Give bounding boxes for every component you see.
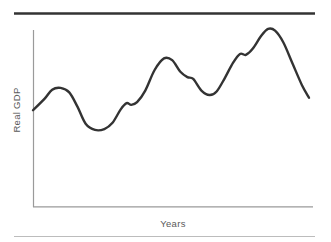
x-axis-label: Years <box>160 218 185 229</box>
x-axis-label-wrap: Years <box>33 213 313 231</box>
chart-canvas <box>0 0 331 242</box>
y-axis-label-wrap: Real GDP <box>9 78 23 142</box>
chart-figure: Real GDP Years <box>0 0 331 242</box>
y-axis-label: Real GDP <box>11 87 22 132</box>
real-gdp-curve <box>33 28 309 130</box>
